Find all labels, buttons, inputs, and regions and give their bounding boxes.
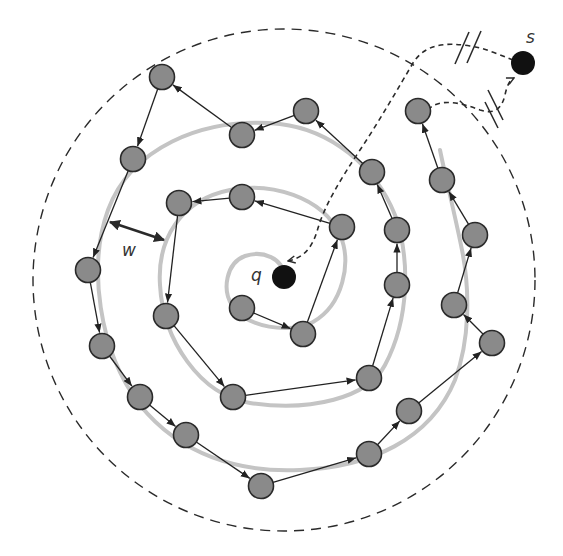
graph-node[interactable]: [294, 99, 319, 124]
graph-node[interactable]: [121, 147, 146, 172]
graph-node[interactable]: [128, 385, 153, 410]
spiral-diagram: w q s: [0, 0, 563, 556]
graph-node[interactable]: [360, 160, 385, 185]
edge-arrow: [422, 124, 438, 168]
break-mark: [455, 32, 469, 64]
width-arrow: [110, 222, 164, 240]
width-label: w: [122, 240, 136, 260]
edge-arrow: [138, 89, 158, 147]
edge-arrow: [192, 198, 229, 202]
graph-node[interactable]: [230, 185, 255, 210]
graph-node[interactable]: [230, 296, 255, 321]
graph-node[interactable]: [249, 474, 274, 499]
route-node-to-s: [428, 78, 514, 112]
graph-node[interactable]: [76, 258, 101, 283]
graph-node[interactable]: [397, 399, 422, 424]
graph-node[interactable]: [221, 385, 246, 410]
graph-node[interactable]: [430, 168, 455, 193]
edge-arrow: [245, 380, 355, 395]
graph-node[interactable]: [480, 331, 505, 356]
graph-node[interactable]: [150, 65, 175, 90]
graph-node[interactable]: [90, 334, 115, 359]
graph-node[interactable]: [406, 99, 431, 124]
graph-node[interactable]: [463, 223, 488, 248]
source-point[interactable]: [511, 51, 535, 75]
graph-node[interactable]: [385, 273, 410, 298]
graph-node[interactable]: [385, 218, 410, 243]
edge-arrow: [110, 356, 132, 386]
edge-arrow: [196, 442, 250, 478]
edge-arrow: [150, 405, 176, 426]
graph-node[interactable]: [154, 304, 179, 329]
graph-node[interactable]: [230, 123, 255, 148]
break-mark: [488, 90, 503, 120]
edge-arrow: [378, 421, 400, 445]
edge-arrow: [173, 85, 232, 128]
graph-node[interactable]: [357, 366, 382, 391]
query-label: q: [251, 265, 262, 285]
graph-node[interactable]: [357, 442, 382, 467]
graph-node[interactable]: [442, 293, 467, 318]
edge-arrow: [419, 352, 482, 404]
graph-node[interactable]: [167, 191, 192, 216]
query-point[interactable]: [272, 265, 296, 289]
graph-node[interactable]: [174, 423, 199, 448]
edge-arrow: [255, 201, 330, 224]
source-label: s: [526, 27, 535, 47]
graph-node[interactable]: [291, 322, 316, 347]
graph-node[interactable]: [330, 215, 355, 240]
edge-arrow: [307, 240, 337, 323]
